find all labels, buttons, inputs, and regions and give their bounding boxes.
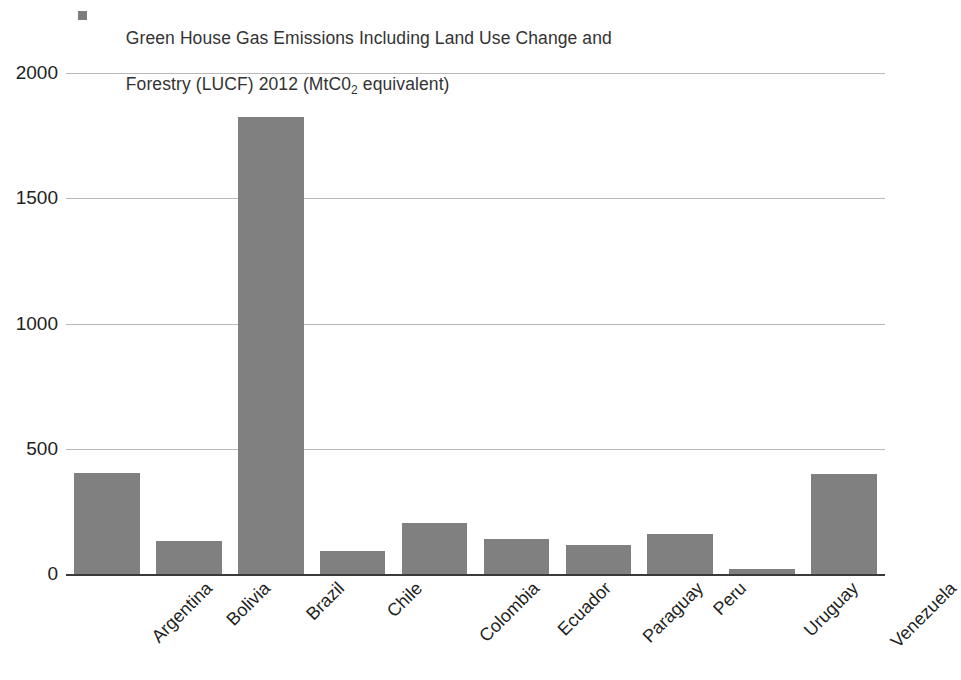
x-axis-tick-label: Brazil [302, 578, 349, 625]
x-axis-tick-label: Uruguay [800, 578, 863, 641]
x-axis-tick-label: Venezuela [887, 578, 961, 652]
bar[interactable] [74, 473, 140, 574]
x-axis-tick-label: Chile [383, 578, 427, 622]
x-axis-tick-label: Bolivia [222, 578, 274, 630]
bars-group [66, 73, 885, 574]
bar[interactable] [729, 569, 795, 574]
bar[interactable] [402, 523, 468, 574]
bar-slot [402, 73, 468, 574]
y-axis-tick-label: 1500 [0, 187, 58, 209]
bar-slot [320, 73, 386, 574]
plot-area [66, 73, 885, 574]
bar-slot [566, 73, 632, 574]
bar-slot [647, 73, 713, 574]
x-axis-tick-label: Peru [709, 578, 751, 620]
x-axis-line [66, 574, 885, 576]
x-axis-tick-label: Ecuador [554, 578, 616, 640]
bar-slot [238, 73, 304, 574]
bar[interactable] [238, 117, 304, 574]
bar-slot [74, 73, 140, 574]
bar-slot [729, 73, 795, 574]
x-axis-tick-label: Argentina [148, 578, 217, 647]
bar[interactable] [484, 539, 550, 574]
y-axis-tick-label: 500 [0, 438, 58, 460]
bar[interactable] [566, 545, 632, 574]
legend-swatch-icon [78, 11, 87, 20]
bar[interactable] [811, 474, 877, 574]
bar-slot [156, 73, 222, 574]
x-axis-tick-label: Colombia [475, 578, 544, 647]
x-axis-tick-label: Paraguay [639, 578, 708, 647]
y-axis: 0500100015002000 [0, 73, 58, 574]
bar[interactable] [156, 541, 222, 574]
bar-slot [811, 73, 877, 574]
x-axis-labels: ArgentinaBoliviaBrazilChileColombiaEcuad… [66, 578, 885, 678]
bar[interactable] [320, 551, 386, 574]
y-axis-tick-label: 1000 [0, 313, 58, 335]
y-axis-tick-label: 2000 [0, 62, 58, 84]
bar[interactable] [647, 534, 713, 574]
bar-slot [484, 73, 550, 574]
y-axis-tick-label: 0 [0, 563, 58, 585]
legend-label-line1: Green House Gas Emissions Including Land… [126, 28, 612, 48]
